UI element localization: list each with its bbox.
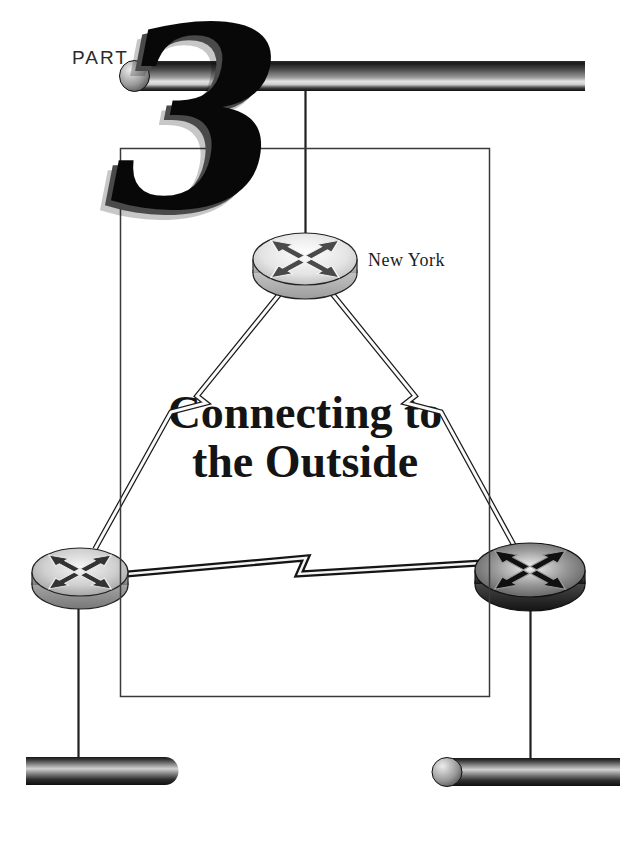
router-four-arrows-icon-left bbox=[32, 548, 128, 609]
ethernet-pipe-bottom-right bbox=[432, 758, 620, 787]
router-four-arrows-icon-right bbox=[475, 543, 585, 611]
serial-link-left bbox=[95, 291, 282, 549]
part-label: PART bbox=[72, 47, 129, 69]
new-york-router-label: New York bbox=[368, 250, 445, 271]
network-diagram bbox=[0, 0, 620, 844]
part-divider-page: Connecting to the Outside bbox=[0, 0, 620, 844]
part-number-numeral: 3 bbox=[110, 0, 284, 243]
serial-link-right bbox=[330, 291, 516, 549]
ethernet-pipe-bottom-left bbox=[26, 757, 179, 785]
serial-link-bottom bbox=[127, 558, 481, 574]
